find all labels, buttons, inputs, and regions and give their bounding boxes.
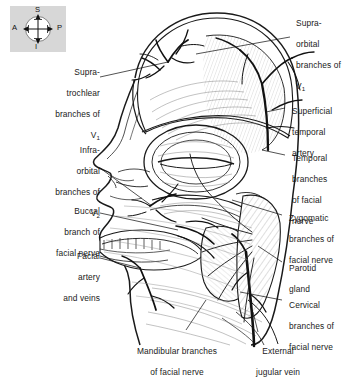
compass-label-superior: S xyxy=(35,5,40,14)
leader-temporal-branches xyxy=(262,150,285,155)
parotid-gland xyxy=(230,185,290,330)
label-external-jugular-vein: External jugular vein xyxy=(238,336,318,381)
compass-label-posterior: P xyxy=(57,23,62,32)
temporal-fascia xyxy=(190,20,300,170)
infraorbital-branches xyxy=(128,184,178,222)
label-mandibular-branches: Mandibular branches of facial nerve xyxy=(117,336,237,381)
oral-region xyxy=(100,230,204,270)
nerve-subscript: 1 xyxy=(302,85,306,92)
leader-buccal xyxy=(100,213,178,230)
compass-label-anterior: A xyxy=(12,23,17,32)
orientation-compass: S I A P xyxy=(10,6,66,52)
orbicularis-oculi xyxy=(144,125,248,199)
compass-label-inferior: I xyxy=(35,42,37,51)
label-supraorbital-branches: Supra- orbital branches of V1 xyxy=(296,8,360,105)
label-facial-artery-and-veins: Facial artery and veins xyxy=(4,241,100,314)
